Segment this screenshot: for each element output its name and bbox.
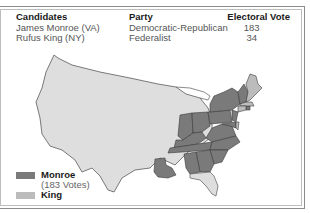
legend-item-king: King bbox=[16, 190, 90, 200]
state-connecticut bbox=[238, 106, 246, 112]
legend: Monroe (183 Votes) King bbox=[16, 170, 90, 200]
king-swatch bbox=[16, 192, 35, 199]
monroe-swatch bbox=[16, 172, 35, 179]
florida bbox=[190, 172, 218, 196]
state-rhode-island bbox=[246, 106, 250, 110]
state-new-jersey bbox=[232, 110, 238, 122]
state-new-york bbox=[210, 88, 240, 112]
legend-label-king: King bbox=[41, 190, 62, 200]
state-massachusetts-maine bbox=[246, 74, 262, 102]
state-delaware bbox=[236, 122, 239, 130]
